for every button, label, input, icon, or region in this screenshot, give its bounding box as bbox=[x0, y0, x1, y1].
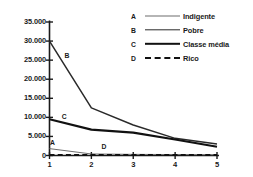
legend-item-d: D Rico bbox=[131, 51, 251, 65]
legend-item-b: B Pobre bbox=[131, 23, 251, 37]
legend-key-c: C bbox=[131, 41, 143, 48]
curve-label-b: B bbox=[62, 52, 72, 59]
curve-label-c: C bbox=[59, 113, 69, 120]
legend-label-classe-media: Classe média bbox=[183, 40, 229, 49]
legend-key-d: D bbox=[131, 55, 143, 62]
chart-figure: 35.00030.00025.00020.00015.00010.0005.00… bbox=[0, 0, 253, 177]
chart-legend: A Indigente B Pobre C Classe média D Ric… bbox=[131, 9, 251, 65]
legend-swatch-pobre-icon bbox=[143, 25, 183, 35]
legend-swatch-indigente-icon bbox=[143, 11, 183, 21]
legend-swatch-classe-media-icon bbox=[143, 39, 183, 49]
legend-item-a: A Indigente bbox=[131, 9, 251, 23]
legend-label-rico: Rico bbox=[183, 54, 199, 63]
legend-label-indigente: Indigente bbox=[183, 12, 215, 21]
legend-item-c: C Classe média bbox=[131, 37, 251, 51]
curve-label-a: A bbox=[47, 139, 57, 146]
legend-key-b: B bbox=[131, 27, 143, 34]
legend-swatch-rico-icon bbox=[143, 53, 183, 63]
legend-key-a: A bbox=[131, 13, 143, 20]
legend-label-pobre: Pobre bbox=[183, 26, 203, 35]
curve-label-d: D bbox=[99, 143, 109, 150]
